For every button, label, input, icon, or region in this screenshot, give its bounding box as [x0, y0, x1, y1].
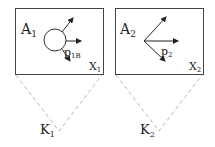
diagram-canvas: A1 p1B X1 K1 A2 p2 X2 K2 — [0, 0, 215, 147]
arrow-up-right-icon — [144, 17, 166, 41]
region-label-1: A1 — [20, 21, 37, 39]
region-label-2: A2 — [119, 21, 136, 39]
space-label-1: X1 — [89, 60, 101, 74]
arrow-up-right-icon — [62, 18, 73, 32]
panel-1: A1 p1B X1 K1 — [16, 9, 104, 140]
space-label-2: X2 — [189, 60, 201, 74]
panel-2: A2 p2 X2 K2 — [116, 9, 204, 140]
cone-label-1: K1 — [40, 122, 55, 139]
dashed-cone-1 — [16, 75, 102, 131]
circle-set-icon — [44, 29, 66, 51]
cone-label-2: K2 — [140, 122, 155, 139]
dashed-cone-2 — [116, 75, 202, 131]
arrow-label-2: p2 — [161, 45, 173, 59]
arrow-label-1: p1B — [64, 46, 81, 60]
